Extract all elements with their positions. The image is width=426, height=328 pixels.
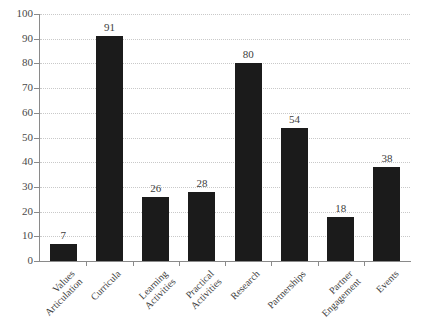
x-axis-tick	[271, 261, 272, 266]
y-axis-tick	[34, 63, 39, 64]
bars-layer	[40, 14, 410, 261]
y-axis-tick	[34, 39, 39, 40]
y-axis-tick-label: 40	[3, 156, 33, 167]
bar-value-label: 91	[89, 22, 129, 33]
y-axis-tick-label: 100	[3, 8, 33, 19]
x-axis-tick	[179, 261, 180, 266]
y-axis-tick	[34, 187, 39, 188]
y-axis-tick-label: 10	[3, 230, 33, 241]
bar	[235, 63, 262, 261]
bar-value-label: 7	[43, 230, 83, 241]
bar-value-label: 38	[367, 153, 407, 164]
y-axis-tick-label: 20	[3, 206, 33, 217]
y-axis-tick	[34, 162, 39, 163]
y-axis-tick	[34, 261, 39, 262]
y-axis-tick	[34, 236, 39, 237]
y-axis-tick-label: 0	[3, 255, 33, 266]
y-axis-tick	[34, 212, 39, 213]
bar	[96, 36, 123, 261]
bar-value-label: 28	[182, 178, 222, 189]
bar-value-label: 80	[228, 49, 268, 60]
bar-value-label: 18	[321, 203, 361, 214]
x-axis-tick	[86, 261, 87, 266]
y-axis-tick-label: 80	[3, 57, 33, 68]
y-axis-tick-labels: 0102030405060708090100	[0, 0, 33, 328]
bar	[142, 197, 169, 261]
x-axis-tick	[318, 261, 319, 266]
y-axis-tick-label: 70	[3, 82, 33, 93]
bar	[327, 217, 354, 261]
y-axis-tick	[34, 138, 39, 139]
bar	[373, 167, 400, 261]
bar-value-label: 26	[136, 183, 176, 194]
bar-chart: 0102030405060708090100 791262880541838 V…	[0, 0, 426, 328]
x-axis-tick	[364, 261, 365, 266]
bar	[188, 192, 215, 261]
bar-value-label: 54	[274, 114, 314, 125]
bar	[50, 244, 77, 261]
y-axis-tick	[34, 14, 39, 15]
bar	[281, 128, 308, 261]
y-axis-tick-label: 30	[3, 181, 33, 192]
y-axis-tick-label: 60	[3, 107, 33, 118]
y-axis-tick	[34, 113, 39, 114]
y-axis-tick-label: 90	[3, 33, 33, 44]
y-axis-tick	[34, 88, 39, 89]
y-axis-tick-label: 50	[3, 132, 33, 143]
x-axis-tick	[133, 261, 134, 266]
x-axis-tick	[225, 261, 226, 266]
y-axis-line	[39, 14, 40, 262]
